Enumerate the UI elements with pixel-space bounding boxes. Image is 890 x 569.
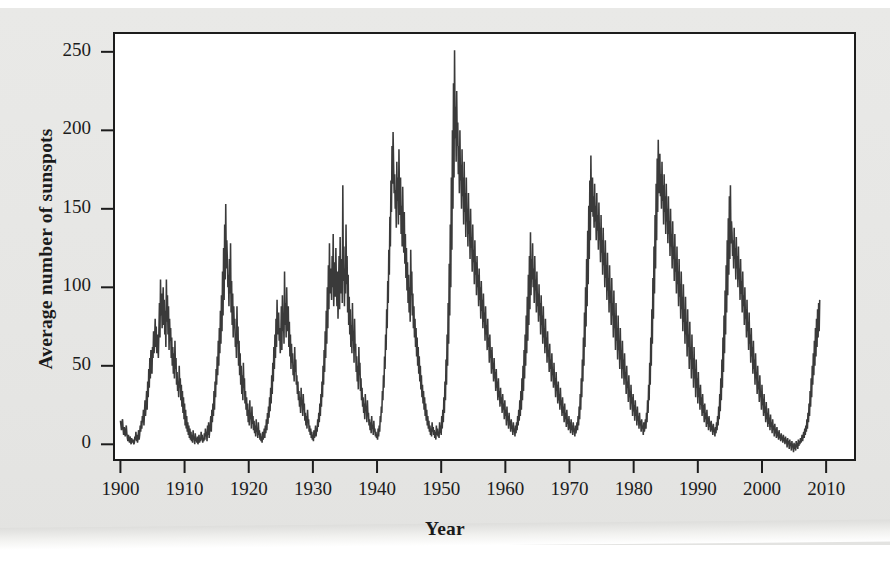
y-tick-label: 250 <box>9 39 91 61</box>
x-tick-label: 2010 <box>781 478 871 500</box>
y-tick-label: 0 <box>9 431 91 453</box>
y-tick-label: 200 <box>9 117 91 139</box>
x-axis-title: Year <box>0 518 890 540</box>
y-tick-label: 100 <box>9 274 91 296</box>
y-tick-label: 50 <box>9 353 91 375</box>
sunspot-time-series-chart: Average number of sunspots Year 05010015… <box>0 0 890 569</box>
figure-page: Average number of sunspots Year 05010015… <box>0 0 890 569</box>
y-tick-label: 150 <box>9 196 91 218</box>
